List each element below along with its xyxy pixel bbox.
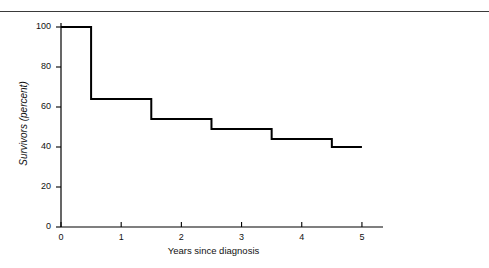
y-tick-label-20: 20 [27, 182, 51, 191]
x-tick-label-2: 2 [171, 233, 191, 242]
x-tick-label-4: 4 [292, 233, 312, 242]
y-tick-label-100: 100 [27, 22, 51, 31]
x-tick-label-3: 3 [232, 233, 252, 242]
y-tick-marks [56, 27, 61, 227]
chart-svg [0, 0, 489, 268]
y-tick-label-80: 80 [27, 62, 51, 71]
x-tick-marks [61, 222, 362, 227]
x-tick-label-5: 5 [352, 233, 372, 242]
x-tick-label-1: 1 [111, 233, 131, 242]
data-series-group [61, 27, 362, 147]
y-tick-label-60: 60 [27, 102, 51, 111]
x-axis-title: Years since diagnosis [0, 245, 489, 256]
y-axis-title-text: Survivors (percent) [18, 81, 29, 165]
figure-container: 020406080100 012345 Years since diagnosi… [0, 0, 489, 268]
x-tick-label-0: 0 [51, 233, 71, 242]
survival-step-line [61, 27, 362, 147]
plot-area: 020406080100 012345 Years since diagnosi… [0, 0, 489, 268]
y-tick-label-40: 40 [27, 142, 51, 151]
y-tick-label-0: 0 [27, 222, 51, 231]
y-axis-title: Survivors (percent) [18, 54, 29, 194]
axes-group [61, 23, 383, 227]
x-axis-title-text: Years since diagnosis [168, 245, 260, 256]
